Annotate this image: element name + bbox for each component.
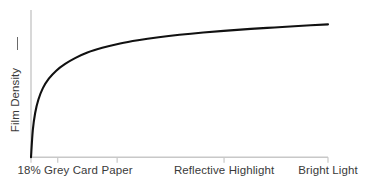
- y-axis-title: Film Density: [6, 52, 24, 148]
- film-density-chart: Film Density 18% Grey CardPaperReflectiv…: [0, 0, 365, 188]
- x-axis-tick-label: Paper: [102, 164, 133, 176]
- x-axis-tick-label: Bright Light: [298, 164, 357, 176]
- x-axis-tick-label: Reflective Highlight: [174, 164, 274, 176]
- x-axis-tick-label: 18% Grey Card: [17, 164, 98, 176]
- y-axis-direction-arrow-icon: [17, 37, 18, 50]
- y-axis-title-label: Film Density: [9, 68, 21, 132]
- film-density-curve: [31, 24, 328, 157]
- x-axis-ticks: [31, 157, 328, 163]
- chart-plot-area: [0, 0, 365, 188]
